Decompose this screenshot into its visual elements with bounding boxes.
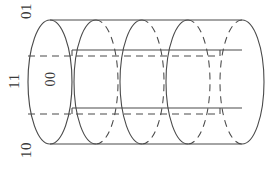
cylinder-body-outline bbox=[50, 20, 242, 144]
horizontal-band-lines bbox=[72, 50, 242, 108]
right-cap-front-arc bbox=[242, 20, 264, 144]
ellipse-back-arc bbox=[188, 20, 210, 144]
right-end-cap-ellipse bbox=[220, 20, 264, 144]
ellipse-front-arc bbox=[166, 20, 188, 144]
cross-section-ellipse-4 bbox=[166, 20, 210, 144]
cylinder-figure: 01 11 10 00 bbox=[0, 0, 269, 172]
ellipse-back-arc bbox=[142, 20, 164, 144]
label-00: 00 bbox=[43, 62, 59, 96]
right-cap-back-arc bbox=[220, 20, 242, 144]
cross-section-ellipse-3 bbox=[120, 20, 164, 144]
cross-section-ellipse-2 bbox=[74, 20, 118, 144]
label-10: 10 bbox=[17, 130, 35, 170]
band-step-connectors bbox=[72, 50, 220, 114]
cylinder-drawing bbox=[0, 0, 269, 172]
ellipse-back-arc bbox=[96, 20, 118, 144]
label-11: 11 bbox=[5, 61, 23, 101]
ellipse-front-arc bbox=[120, 20, 142, 144]
label-01: 01 bbox=[17, 0, 35, 31]
ellipse-front-arc bbox=[74, 20, 96, 144]
